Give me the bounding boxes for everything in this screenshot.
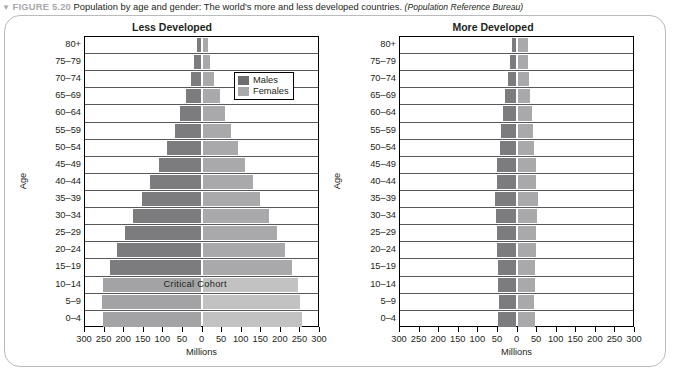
bar-females — [203, 295, 301, 309]
bar-row — [400, 242, 633, 259]
bar-row — [400, 225, 633, 242]
x-axis-tick — [477, 327, 478, 332]
bar-males — [110, 260, 201, 274]
chart-title-less-developed: Less Developed — [7, 21, 337, 33]
bar-females — [518, 158, 536, 172]
x-axis-tick — [299, 327, 300, 332]
y-axis-tick-label: 20–24 — [27, 241, 81, 258]
figure-number: FIGURE 5.20 — [13, 1, 71, 12]
x-axis-labels-left: 30025020015010050050100150200250300 — [84, 334, 319, 346]
x-axis-tick — [202, 327, 203, 332]
bar-males — [159, 158, 201, 172]
legend-swatch-females-icon — [238, 87, 249, 96]
bar-row — [85, 311, 318, 328]
y-axis-tick-label: 65–69 — [27, 87, 81, 104]
y-axis-tick-label: 25–29 — [342, 224, 396, 241]
bar-females — [203, 89, 220, 103]
bar-females — [518, 124, 534, 138]
bar-males — [495, 192, 515, 206]
bar-males — [512, 38, 516, 52]
bar-females — [518, 106, 532, 120]
bar-males — [510, 55, 515, 69]
bar-males — [133, 209, 200, 223]
y-axis-tick-label: 50–54 — [342, 139, 396, 156]
y-axis-tick-label: 55–59 — [27, 122, 81, 139]
x-axis-tick — [123, 327, 124, 332]
y-axis-tick-label: 15–19 — [27, 258, 81, 275]
bar-row — [400, 140, 633, 157]
x-axis-tick-label: 300 — [306, 334, 332, 344]
x-axis-tick — [260, 327, 261, 332]
x-axis-tick — [556, 327, 557, 332]
y-axis-tick-label: 80+ — [342, 36, 396, 53]
x-axis-tick — [419, 327, 420, 332]
y-axis-tick-label: 30–34 — [342, 207, 396, 224]
y-axis-tick-label: 30–34 — [27, 207, 81, 224]
bar-row — [85, 208, 318, 225]
y-axis-labels-right: 80+75–7970–7465–6960–6455–5950–5445–4940… — [342, 36, 396, 327]
x-axis-tick — [575, 327, 576, 332]
bar-row — [400, 294, 633, 311]
bar-males — [103, 312, 201, 327]
x-axis-ticks-right — [399, 327, 634, 333]
bar-row — [400, 54, 633, 71]
bar-males — [102, 295, 201, 309]
x-axis-tick — [595, 327, 596, 332]
bar-females — [203, 175, 253, 189]
bar-row — [85, 225, 318, 242]
bar-males — [501, 124, 516, 138]
bar-row — [400, 123, 633, 140]
bar-row — [400, 191, 633, 208]
y-axis-tick-label: 20–24 — [342, 241, 396, 258]
bar-males — [497, 175, 516, 189]
bar-males — [194, 55, 200, 69]
y-axis-tick-label: 50–54 — [27, 139, 81, 156]
bar-row — [400, 259, 633, 276]
bar-row — [400, 88, 633, 105]
plot-area-more-developed — [399, 36, 634, 327]
y-axis-tick-label: 60–64 — [342, 104, 396, 121]
bar-females — [518, 192, 538, 206]
y-axis-tick-label: 80+ — [27, 36, 81, 53]
x-axis-tick — [221, 327, 222, 332]
bar-males — [117, 243, 201, 257]
bar-row — [400, 208, 633, 225]
bar-males — [496, 209, 516, 223]
bar-males — [500, 141, 516, 155]
x-axis-title-right: Millions — [399, 347, 634, 357]
x-axis-tick — [280, 327, 281, 332]
legend-label-males: Males — [253, 75, 278, 86]
bar-females — [518, 295, 534, 309]
bar-males — [497, 158, 515, 172]
bar-females — [518, 278, 535, 292]
y-axis-tick-label: 15–19 — [342, 258, 396, 275]
bar-females — [203, 72, 215, 86]
x-axis-tick — [241, 327, 242, 332]
bar-males — [186, 89, 201, 103]
x-axis-tick — [162, 327, 163, 332]
bar-row — [400, 174, 633, 191]
y-axis-tick-label: 65–69 — [342, 87, 396, 104]
bar-females — [518, 55, 528, 69]
bar-males — [498, 312, 515, 327]
bar-males — [497, 226, 516, 240]
x-axis-tick — [517, 327, 518, 332]
bar-females — [203, 124, 231, 138]
legend-item-females-left: Females — [238, 86, 289, 97]
bar-males — [503, 106, 516, 120]
bar-row — [85, 259, 318, 276]
bar-females — [203, 312, 303, 327]
bar-row — [400, 105, 633, 122]
x-axis-tick — [497, 327, 498, 332]
bar-row — [400, 277, 633, 294]
figure-caption: ▼ FIGURE 5.20 Population by age and gend… — [2, 0, 672, 14]
bar-rows-right — [400, 37, 633, 326]
bar-row — [85, 140, 318, 157]
bar-females — [203, 158, 245, 172]
bar-females — [203, 226, 277, 240]
bar-males — [167, 141, 201, 155]
x-axis-tick-label: 300 — [621, 334, 647, 344]
bar-row — [85, 242, 318, 259]
bar-females — [203, 141, 238, 155]
legend-label-females: Females — [253, 86, 289, 97]
